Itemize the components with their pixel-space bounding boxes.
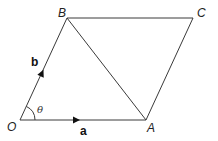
label-O: O (7, 120, 16, 134)
label-vector-a: a (80, 124, 87, 138)
arrow-b-icon (37, 68, 46, 77)
label-theta: θ (37, 104, 43, 115)
edge-OB (20, 18, 67, 120)
label-vector-b: b (31, 55, 38, 69)
angle-arc (26, 106, 35, 120)
label-B: B (58, 6, 66, 20)
label-C: C (197, 6, 206, 20)
edge-AC (146, 18, 193, 120)
parallelogram-diagram: B C O A b a θ (0, 0, 218, 141)
label-A: A (146, 121, 155, 135)
edge-BA-diagonal (67, 18, 146, 120)
arrow-a-icon (73, 117, 80, 124)
